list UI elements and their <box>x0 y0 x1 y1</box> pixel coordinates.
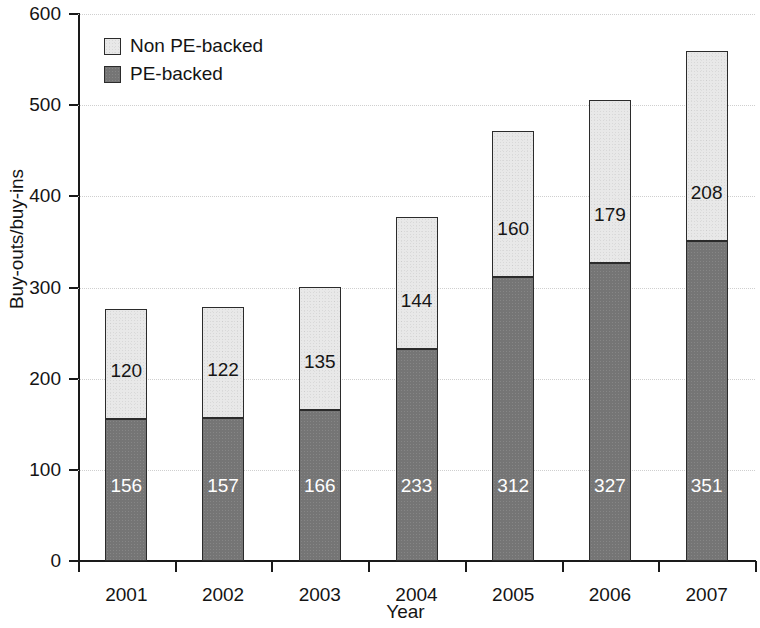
legend-label: PE-backed <box>130 63 223 85</box>
y-axis-tick <box>69 378 78 380</box>
y-axis-tick <box>69 104 78 106</box>
y-axis-tick-label: 500 <box>1 95 61 114</box>
x-axis-tick-label-2005: 2005 <box>468 584 558 606</box>
bar-segment-non-pe-backed-2006 <box>589 100 631 263</box>
bar-segment-pe-backed-2002 <box>202 418 244 561</box>
x-axis-tick-label-2001: 2001 <box>81 584 171 606</box>
gridline-y-600 <box>78 14 755 16</box>
bar-segment-non-pe-backed-2002 <box>202 307 244 418</box>
bar-segment-pe-backed-2004 <box>396 349 438 561</box>
legend-swatch-icon <box>104 38 121 55</box>
x-axis-tick <box>368 561 370 572</box>
y-axis-tick <box>69 469 78 471</box>
x-axis-tick <box>755 561 757 572</box>
y-axis-tick <box>69 13 78 15</box>
bar-segment-non-pe-backed-2007 <box>686 51 728 241</box>
chart-figure: Buy-outs/buy-ins Year 010020030040050060… <box>0 0 760 628</box>
bar-segment-pe-backed-2003 <box>299 410 341 561</box>
x-axis-tick-label-2007: 2007 <box>662 584 752 606</box>
bar-segment-pe-backed-2006 <box>589 263 631 561</box>
plot-area: 0100200300400500600120156200112215720021… <box>78 14 755 561</box>
y-axis-tick-label: 600 <box>1 4 61 23</box>
bar-segment-pe-backed-2005 <box>492 277 534 561</box>
gridline-y-500 <box>78 105 755 107</box>
y-axis-tick-label: 400 <box>1 186 61 205</box>
y-axis-tick-label: 100 <box>1 460 61 479</box>
bar-segment-non-pe-backed-2004 <box>396 217 438 348</box>
y-axis-tick-label: 0 <box>1 551 61 570</box>
bar-segment-pe-backed-2001 <box>105 419 147 561</box>
y-axis-tick-label: 200 <box>1 369 61 388</box>
legend-swatch-icon <box>104 66 121 83</box>
legend-label: Non PE-backed <box>130 35 263 57</box>
x-axis-tick <box>78 561 80 572</box>
y-axis-title: Buy-outs/buy-ins <box>6 104 28 374</box>
y-axis-tick <box>69 287 78 289</box>
x-axis-tick-label-2003: 2003 <box>275 584 365 606</box>
bar-segment-non-pe-backed-2001 <box>105 309 147 418</box>
x-axis-tick-label-2006: 2006 <box>565 584 655 606</box>
bar-segment-non-pe-backed-2005 <box>492 131 534 277</box>
y-axis-tick <box>69 560 78 562</box>
x-axis-tick <box>271 561 273 572</box>
bar-segment-non-pe-backed-2003 <box>299 287 341 410</box>
x-axis-tick <box>562 561 564 572</box>
gridline-y-400 <box>78 196 755 198</box>
x-axis-tick <box>658 561 660 572</box>
legend-item-non-pe-backed: Non PE-backed <box>104 34 263 58</box>
y-axis-tick-label: 300 <box>1 278 61 297</box>
y-axis-tick <box>69 195 78 197</box>
bar-segment-pe-backed-2007 <box>686 241 728 561</box>
legend-item-pe-backed: PE-backed <box>104 62 263 86</box>
x-axis-tick-label-2002: 2002 <box>178 584 268 606</box>
x-axis-tick <box>175 561 177 572</box>
chart-legend: Non PE-backedPE-backed <box>104 34 263 90</box>
x-axis-tick-label-2004: 2004 <box>372 584 462 606</box>
x-axis-tick <box>465 561 467 572</box>
